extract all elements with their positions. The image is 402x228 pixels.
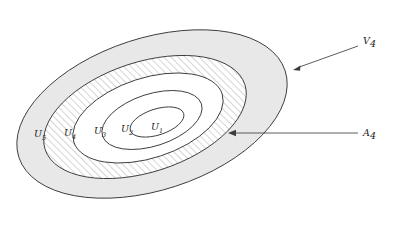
nested-ellipse-figure: U5 U4 U3 U2 U1 V4 A4 [0, 0, 402, 228]
diagram-canvas: U5 U4 U3 U2 U1 V4 A4 [0, 0, 402, 228]
